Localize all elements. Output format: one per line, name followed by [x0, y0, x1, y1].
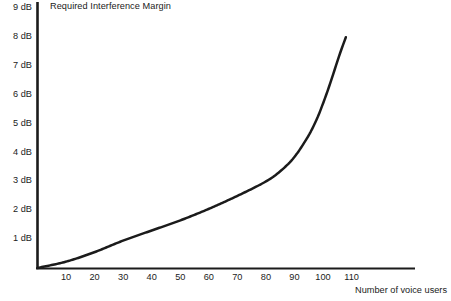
y-axis-tick-label: 5 dB	[0, 118, 32, 128]
y-axis-tick-label: 1 dB	[0, 233, 32, 243]
x-axis-title: Number of voice users	[355, 285, 447, 295]
x-axis-tick-label: 110	[337, 272, 367, 282]
y-axis-tick-label: 4 dB	[0, 147, 32, 157]
y-axis-tick-label: 3 dB	[0, 175, 32, 185]
x-axis-tick-label: 30	[108, 272, 138, 282]
x-axis-tick-label: 10	[51, 272, 81, 282]
chart-plot-area	[0, 0, 451, 301]
chart-title: Required Interference Margin	[50, 1, 171, 11]
x-axis-tick-label: 80	[251, 272, 281, 282]
y-axis-tick-label: 9 dB	[0, 2, 32, 12]
data-series-line	[38, 37, 346, 268]
x-axis-tick-label: 40	[137, 272, 167, 282]
y-axis-tick-label: 2 dB	[0, 204, 32, 214]
chart-figure: Required Interference Margin 1 dB2 dB3 d…	[0, 0, 451, 301]
x-axis-tick-label: 70	[222, 272, 252, 282]
x-axis-tick-label: 50	[165, 272, 195, 282]
y-axis-tick-label: 6 dB	[0, 89, 32, 99]
x-axis-tick-label: 60	[194, 272, 224, 282]
y-axis-tick-label: 7 dB	[0, 60, 32, 70]
y-axis-tick-label: 8 dB	[0, 31, 32, 41]
x-axis-tick-label: 20	[80, 272, 110, 282]
x-axis-tick-label: 100	[308, 272, 338, 282]
x-axis-tick-label: 90	[279, 272, 309, 282]
